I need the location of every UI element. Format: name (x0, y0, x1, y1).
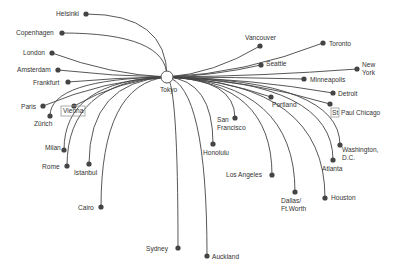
label-los-angeles: Los Angeles (226, 171, 263, 179)
label-tokyo: Tokyo (160, 86, 178, 94)
label-portland: Portland (272, 101, 297, 108)
route-line-toronto (167, 43, 323, 77)
label-toronto: Toronto (329, 40, 351, 47)
destination-nodes (40, 11, 359, 258)
label-vienna: Vienna (63, 107, 84, 114)
node-atlanta (330, 157, 335, 162)
route-line-san-francisco (167, 77, 235, 118)
route-line-atlanta (167, 77, 333, 160)
node-new-york (354, 66, 359, 71)
label-z-rich: Zürich (34, 120, 53, 127)
route-line-auckland (167, 77, 207, 256)
node-san-francisco (232, 115, 237, 120)
label-detroit: Detroit (338, 90, 358, 97)
node-cairo (98, 204, 103, 209)
node-seattle (258, 62, 263, 67)
node-helsinki (83, 11, 88, 16)
label-vancouver: Vancouver (245, 34, 277, 41)
node-paul-chicago (327, 101, 332, 106)
route-lines (43, 14, 357, 256)
label-houston: Houston (331, 194, 356, 201)
node-copenhagen (59, 30, 64, 35)
label-helsinki: Helsinki (56, 10, 80, 17)
node-portland (268, 94, 273, 99)
route-line-rome (67, 77, 167, 166)
node-milan (61, 147, 66, 152)
label-rome: Rome (42, 163, 60, 170)
route-diagram: HelsinkiCopenhagenLondonAmsterdamFrankfu… (0, 0, 393, 275)
node-paris (40, 103, 45, 108)
label-istanbul: Istanbul (74, 169, 98, 176)
label-minneapolis: Minneapolis (310, 76, 346, 84)
hub-circle (161, 71, 173, 83)
label-copenhagen: Copenhagen (16, 29, 54, 37)
node-minneapolis (301, 76, 306, 81)
label-milan: Milan (45, 144, 61, 151)
label-cairo: Cairo (78, 204, 94, 211)
label-amsterdam: Amsterdam (17, 66, 51, 73)
node-houston (322, 195, 327, 200)
label-washington-d-c: Washington,D.C. (342, 146, 379, 161)
route-line-istanbul (89, 77, 167, 164)
node-sydney (175, 245, 180, 250)
label-frankfurt: Frankfurt (33, 79, 60, 86)
label-dallas-ft-worth: Dallas/Ft.Worth (281, 197, 306, 212)
route-line-cairo (101, 77, 167, 207)
label-sydney: Sydney (146, 245, 169, 253)
node-vancouver (257, 43, 262, 48)
label-honolulu: Honolulu (203, 149, 229, 156)
label-london: London (23, 49, 45, 56)
route-line-london (52, 53, 167, 77)
route-line-houston (167, 77, 325, 198)
node-honolulu (210, 141, 215, 146)
hub-node-tokyo: Tokyo (160, 71, 178, 94)
node-istanbul (86, 161, 91, 166)
node-auckland (204, 253, 209, 258)
node-toronto (320, 40, 325, 45)
node-z-rich (47, 113, 52, 118)
node-detroit (330, 90, 335, 95)
label-paul-chicago: Paul Chicago (341, 109, 381, 117)
label-san-francisco: SanFrancisco (217, 116, 246, 131)
node-amsterdam (55, 67, 60, 72)
node-dallas-ft-worth (292, 189, 297, 194)
node-rome (64, 163, 69, 168)
node-london (49, 50, 54, 55)
route-line-vienna (74, 77, 167, 106)
label-atlanta: Atlanta (322, 165, 343, 172)
prefix-label-paul-chicago: St (332, 109, 338, 116)
node-frankfurt (65, 79, 70, 84)
label-new-york: NewYork (362, 61, 376, 76)
node-los-angeles (269, 172, 274, 177)
label-paris: Paris (21, 103, 37, 110)
route-line-sydney (167, 77, 178, 248)
label-seattle: Seattle (266, 60, 287, 67)
label-auckland: Auckland (212, 253, 239, 260)
